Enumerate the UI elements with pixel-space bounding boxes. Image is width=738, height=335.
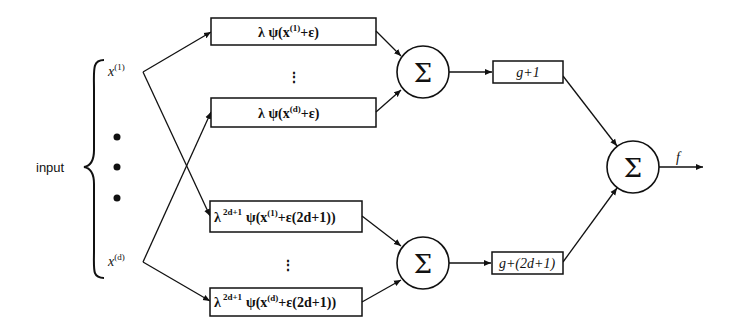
inner-box-group1-x1: λ ψ(x(1)+ε): [211, 18, 376, 45]
svg-text:λ ψ(x(1)+ε): λ ψ(x(1)+ε): [258, 23, 319, 41]
input-label: input: [36, 160, 65, 175]
output-label: f: [676, 150, 682, 165]
input-brace: [84, 60, 104, 278]
sum-node-bottom: Σ: [397, 237, 449, 289]
input-x1: x(1): [107, 62, 125, 79]
vertical-ellipsis-group1: ⋮: [287, 70, 301, 85]
svg-text:Σ: Σ: [414, 58, 432, 88]
svg-text:Σ: Σ: [624, 153, 642, 183]
inner-box-group2-xd: λ2d+1ψ(x(d)+ε(2d+1)): [210, 288, 362, 316]
svg-text:Σ: Σ: [414, 249, 432, 279]
kolmogorov-network-diagram: input x(1) x(d) λ ψ(x(1)+ε) ⋮ λ ψ(x(d)+ε…: [0, 0, 738, 335]
svg-text:g+(2d+1): g+(2d+1): [499, 256, 556, 272]
input-ellipsis-dot: [114, 164, 121, 171]
outer-box-g2d1: g+(2d+1): [492, 252, 563, 274]
sum-node-top: Σ: [397, 46, 449, 98]
outer-box-g1: g+1: [493, 61, 563, 83]
inner-box-group2-x1: λ2d+1ψ(x(1)+ε(2d+1)): [210, 201, 362, 232]
input-ellipsis-dot: [114, 195, 121, 202]
input-xd: x(d): [107, 252, 125, 269]
sum-node-final: Σ: [607, 141, 659, 193]
inner-box-group1-xd: λ ψ(x(d)+ε): [211, 98, 376, 127]
svg-text:g+1: g+1: [516, 65, 539, 80]
svg-text:λ ψ(x(d)+ε): λ ψ(x(d)+ε): [258, 104, 320, 122]
input-edges: [143, 32, 211, 301]
input-ellipsis-dot: [114, 134, 121, 141]
vertical-ellipsis-group2: ⋮: [281, 258, 295, 273]
